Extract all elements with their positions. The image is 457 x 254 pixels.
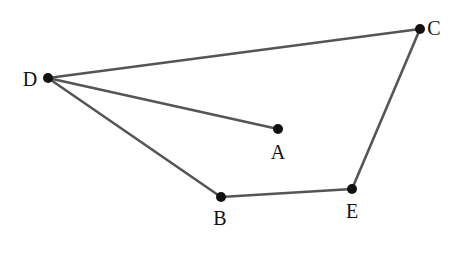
point-d-dot — [43, 73, 53, 83]
point-e-dot — [347, 184, 357, 194]
point-label-a: A — [271, 142, 285, 162]
point-b-dot — [216, 192, 226, 202]
point-label-b: B — [213, 208, 226, 228]
edge-b-e — [221, 189, 352, 197]
point-label-c: C — [427, 18, 440, 38]
edge-e-c — [352, 29, 420, 189]
graph-drawing — [0, 0, 457, 254]
point-c-dot — [415, 24, 425, 34]
point-label-d: D — [23, 69, 37, 89]
point-label-e: E — [346, 201, 358, 221]
edges-group — [48, 29, 420, 197]
edge-d-c — [48, 29, 420, 78]
point-a-dot — [273, 124, 283, 134]
diagram-canvas: D C A B E — [0, 0, 457, 254]
edge-d-a — [48, 78, 278, 129]
